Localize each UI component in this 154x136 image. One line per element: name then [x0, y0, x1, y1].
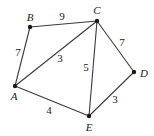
- graph-svg: 9735743 ABCDE: [0, 0, 154, 136]
- node-label-a: A: [10, 90, 18, 102]
- node-labels-group: ABCDE: [10, 4, 148, 133]
- edge-weight-b-c: 9: [59, 10, 65, 22]
- node-b: [28, 25, 32, 29]
- node-c: [95, 19, 99, 23]
- node-d: [132, 70, 136, 74]
- edge-c-e: [89, 21, 97, 116]
- edge-weight-a-e: 4: [46, 104, 52, 116]
- edge-weight-a-b: 7: [15, 46, 21, 58]
- node-label-b: B: [27, 11, 34, 23]
- edge-a-c: [15, 21, 97, 86]
- edge-c-d: [97, 21, 134, 72]
- node-e: [87, 114, 91, 118]
- edge-weight-c-d: 7: [119, 36, 125, 48]
- edge-weight-d-e: 3: [112, 93, 118, 105]
- node-label-c: C: [93, 4, 101, 16]
- node-a: [13, 84, 17, 88]
- edge-weight-c-e: 5: [83, 61, 89, 73]
- node-label-d: D: [139, 67, 148, 79]
- edge-a-e: [15, 86, 89, 116]
- edge-weight-a-c: 3: [57, 52, 63, 64]
- node-label-e: E: [85, 121, 93, 133]
- graph-diagram: 9735743 ABCDE: [0, 0, 154, 136]
